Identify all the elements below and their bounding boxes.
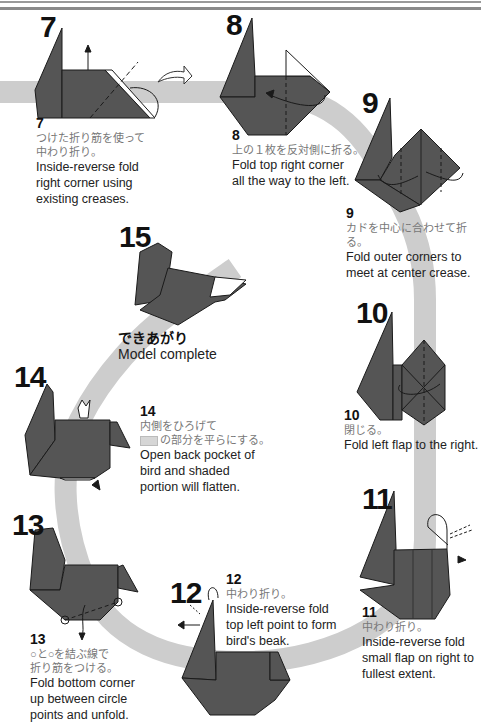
- step-7-jp-line1: つけた折り筋を使って: [36, 131, 145, 145]
- step-7-caption: 7 つけた折り筋を使って 中わり折り。 Inside-reverse fold …: [36, 116, 145, 207]
- step-13-en-line3: points and unfold.: [30, 707, 135, 723]
- step-11-caption-number: 11: [362, 605, 474, 620]
- step-14-figure: [25, 384, 130, 490]
- step-11-en-line3: fullest extent.: [362, 666, 474, 682]
- step-10-en-line1: Fold left flap to the right.: [344, 437, 478, 453]
- step-11-en-line2: small flap on right to: [362, 650, 474, 666]
- step-7-caption-number: 7: [36, 116, 145, 131]
- step-7-en-line3: existing creases.: [36, 191, 145, 207]
- step-13-en-line2: up between circle: [30, 691, 135, 707]
- step-11-number: 11: [362, 484, 392, 514]
- step-10-number: 10: [356, 298, 387, 328]
- step-14-en-line2: bird and shaded: [140, 463, 270, 479]
- step-13-jp-line1: ○と○を結ぶ線で: [30, 647, 135, 661]
- step-9-caption-number: 9: [346, 206, 481, 221]
- shaded-area-swatch: [140, 436, 158, 446]
- step-8-en-line2: all the way to the left.: [232, 173, 364, 189]
- step-8-en-line1: Fold top right corner: [232, 157, 364, 173]
- step-14-jp-line2: の部分を平らにする。: [160, 434, 270, 446]
- step-12-number: 12: [170, 578, 201, 608]
- model-complete-en: Model complete: [118, 346, 217, 362]
- step-8-jp-line1: 上の１枚を反対側に折る。: [232, 143, 364, 157]
- step-12-jp-line1: 中わり折り。: [226, 587, 336, 601]
- step-11-caption: 11 中わり折り。 Inside-reverse fold small flap…: [362, 605, 474, 682]
- step-15-figure: [135, 243, 246, 325]
- step-7-en-line1: Inside-reverse fold: [36, 159, 145, 175]
- step-10-jp-line1: 閉じる。: [344, 423, 478, 437]
- step-7-en-line2: right corner using: [36, 175, 145, 191]
- step-12-en-line3: bird's beak.: [226, 633, 336, 649]
- step-8-caption-number: 8: [232, 128, 364, 143]
- step-12-caption: 12 中わり折り。 Inside-reverse fold top left p…: [226, 572, 336, 649]
- step-14-caption-number: 14: [140, 404, 270, 419]
- step-12-en-line1: Inside-reverse fold: [226, 601, 336, 617]
- step-13-number: 13: [12, 510, 43, 540]
- step-8-caption: 8 上の１枚を反対側に折る。 Fold top right corner all…: [232, 128, 364, 189]
- step-14-en-line1: Open back pocket of: [140, 447, 270, 463]
- step-7-number: 7: [40, 12, 56, 42]
- step-14-jp-line2-wrap: の部分を平らにする。: [140, 433, 270, 447]
- step-10-caption: 10 閉じる。 Fold left flap to the right.: [344, 408, 478, 453]
- step-7-jp-line2: 中わり折り。: [36, 145, 145, 159]
- model-complete-jp: できあがり: [118, 330, 217, 346]
- step-9-caption: 9 カドを中心に合わせて折る。 Fold outer corners to me…: [346, 206, 481, 281]
- step-9-jp-line1: カドを中心に合わせて折る。: [346, 221, 481, 249]
- step-10-caption-number: 10: [344, 408, 478, 423]
- step-12-caption-number: 12: [226, 572, 336, 587]
- step-14-number: 14: [14, 362, 45, 392]
- step-15-number: 15: [119, 222, 150, 252]
- step-9-number: 9: [362, 88, 378, 118]
- step-9-en-line1: Fold outer corners to: [346, 249, 481, 265]
- step-13-en-line1: Fold bottom corner: [30, 675, 135, 691]
- step-9-en-line2: meet at center crease.: [346, 265, 481, 281]
- step-14-jp-line1: 内側をひろげて: [140, 419, 270, 433]
- step-11-jp-line1: 中わり折り。: [362, 620, 474, 634]
- step-8-number: 8: [226, 10, 242, 40]
- step-13-caption-number: 13: [30, 632, 135, 647]
- step-13-jp-line2: 折り筋をつける。: [30, 661, 135, 675]
- step-15-caption: できあがり Model complete: [118, 330, 217, 362]
- step-13-caption: 13 ○と○を結ぶ線で 折り筋をつける。 Fold bottom corner …: [30, 632, 135, 723]
- step-12-en-line2: top left point to form: [226, 617, 336, 633]
- step-14-caption: 14 内側をひろげて の部分を平らにする。 Open back pocket o…: [140, 404, 270, 495]
- step-11-en-line1: Inside-reverse fold: [362, 634, 474, 650]
- step-14-en-line3: portion will flatten.: [140, 479, 270, 495]
